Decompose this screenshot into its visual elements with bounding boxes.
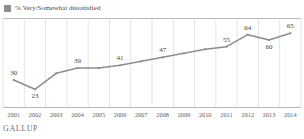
point-value-label: 39: [74, 57, 81, 65]
data-point: [34, 88, 36, 90]
point-value-label: 65: [287, 22, 294, 30]
plot-area: [0, 18, 304, 108]
data-point: [162, 56, 164, 58]
point-value-label: 30: [10, 69, 17, 77]
gridlines: [3, 18, 301, 107]
point-value-label: 64: [244, 24, 251, 32]
line-chart-svg: [0, 18, 304, 108]
data-point: [140, 60, 142, 62]
data-point: [55, 72, 57, 74]
data-point: [247, 34, 249, 36]
legend-label: % Very/Somewhat dissatisfied: [15, 4, 100, 12]
data-point: [225, 46, 227, 48]
x-tick-label: 2011: [220, 110, 232, 119]
data-point: [98, 67, 100, 69]
x-tick-label: 2004: [71, 110, 84, 119]
point-value-label: 60: [266, 43, 273, 51]
x-tick-label: 2008: [156, 110, 169, 119]
point-value-label: 47: [159, 46, 166, 54]
point-value-label: 41: [117, 54, 124, 62]
data-point: [204, 48, 206, 50]
x-tick-label: 2002: [29, 110, 42, 119]
x-tick-label: 2006: [114, 110, 127, 119]
x-tick-label: 2013: [263, 110, 276, 119]
x-tick-label: 2009: [178, 110, 191, 119]
data-point: [268, 39, 270, 41]
x-axis-tick-labels: 2001200220032004200520062007200820092010…: [0, 110, 304, 122]
x-tick-label: 2007: [135, 110, 148, 119]
chart-legend: % Very/Somewhat dissatisfied: [4, 3, 100, 13]
data-point: [13, 79, 15, 81]
x-axis-line: [3, 107, 301, 108]
x-tick-label: 2001: [7, 110, 20, 119]
point-value-label: 55: [223, 36, 230, 44]
x-tick-label: 2014: [284, 110, 297, 119]
point-value-label: 23: [31, 92, 38, 100]
data-point: [183, 52, 185, 54]
x-tick-label: 2010: [199, 110, 212, 119]
x-tick-label: 2012: [241, 110, 254, 119]
data-point: [119, 64, 121, 66]
x-tick-label: 2003: [50, 110, 63, 119]
x-tick-label: 2005: [92, 110, 105, 119]
chart-container: % Very/Somewhat dissatisfied 30233941475…: [0, 0, 304, 139]
legend-swatch-icon: [4, 5, 11, 12]
data-point: [289, 32, 291, 34]
data-point: [76, 67, 78, 69]
gallup-logo: GALLUP: [3, 124, 38, 133]
